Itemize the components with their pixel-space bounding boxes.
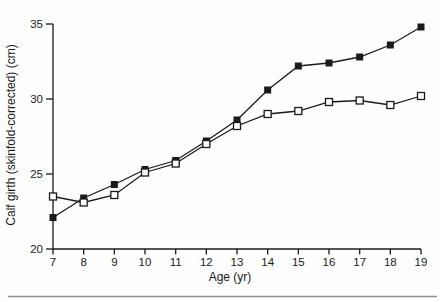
x-tick-label: 14	[261, 256, 274, 268]
filled-square-marker	[50, 214, 57, 221]
filled-square-marker	[356, 54, 363, 61]
filled-square-marker	[387, 42, 394, 49]
open-square-marker	[80, 199, 87, 206]
x-tick-label: 11	[170, 256, 182, 268]
x-tick-label: 10	[139, 256, 152, 268]
x-tick-label: 8	[80, 256, 86, 268]
open-square-marker	[50, 193, 57, 200]
open-square-marker	[295, 108, 302, 115]
x-tick-label: 7	[50, 256, 56, 268]
open-square-marker	[142, 169, 149, 176]
filled-square-marker	[326, 60, 333, 67]
open-square-marker	[264, 111, 271, 118]
x-tick-label: 18	[384, 256, 397, 268]
filled-square-marker	[264, 87, 271, 94]
open-square-marker	[356, 97, 363, 104]
x-tick-label: 16	[323, 256, 336, 268]
open-square-marker	[326, 99, 333, 106]
x-tick-label: 13	[231, 256, 244, 268]
axes-layer: 2025303578910111213141516171819	[30, 18, 427, 268]
filled-square-marker	[418, 24, 425, 31]
chart-figure: 2025303578910111213141516171819 Calf gir…	[0, 0, 440, 302]
filled-square-marker	[295, 63, 302, 70]
x-tick-label: 9	[111, 256, 117, 268]
y-tick-label: 20	[30, 243, 43, 255]
x-tick-label: 17	[353, 256, 366, 268]
x-tick-label: 12	[200, 256, 213, 268]
open-square-marker	[234, 123, 241, 130]
open-square-marker	[203, 141, 210, 148]
x-tick-label: 15	[292, 256, 305, 268]
series-layer	[50, 24, 425, 222]
x-tick-label: 19	[415, 256, 428, 268]
open-square-marker	[418, 93, 425, 100]
open-square-marker	[111, 192, 118, 199]
calf-girth-line-chart: 2025303578910111213141516171819 Calf gir…	[0, 0, 440, 302]
open-square-marker	[387, 102, 394, 109]
filled-square-marker	[111, 181, 118, 188]
y-tick-label: 25	[30, 168, 43, 180]
y-tick-label: 30	[30, 93, 43, 105]
y-tick-label: 35	[30, 18, 43, 30]
x-axis-label: Age (yr)	[209, 270, 252, 284]
open-square-marker	[172, 160, 179, 167]
y-axis-label: Calf girth (skinfold-corrected) (cm)	[4, 44, 18, 225]
